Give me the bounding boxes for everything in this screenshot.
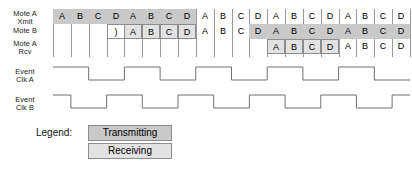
signal-cell: C	[374, 24, 392, 39]
signal-cell: B	[285, 24, 303, 39]
signal-cell: C	[89, 9, 107, 24]
signal-cell: A	[53, 9, 71, 24]
signal-cell: C	[303, 9, 321, 24]
row-label-line2: Clk A	[0, 76, 50, 84]
signal-cell: C	[160, 9, 178, 24]
signal-cell: A	[339, 24, 357, 39]
signal-cell: B	[356, 9, 374, 24]
waveform-trace	[53, 67, 410, 80]
signal-cell: B	[356, 39, 374, 54]
row-label-event-clk-a: Event Clk A	[0, 68, 50, 85]
signal-cell: A	[267, 39, 285, 54]
timing-diagram-root: Mote A Xmit Mote B Mote A Rcv Event Clk …	[0, 0, 412, 173]
signal-cell: D	[392, 24, 410, 39]
signal-cell: B	[214, 9, 232, 24]
row-label-event-clk-b: Event Clk B	[0, 96, 50, 113]
signal-cell: D	[321, 24, 339, 39]
signal-cell: C	[374, 9, 392, 24]
signal-lane-mote-b: )ABCDABCDABCDABCD	[53, 24, 410, 39]
signal-cell: C	[232, 9, 250, 24]
signal-cell: D	[249, 9, 267, 24]
signal-cell: A	[196, 9, 214, 24]
signal-cell: B	[142, 9, 160, 24]
signal-cell: C	[374, 39, 392, 54]
signal-cell: D	[321, 39, 339, 54]
signal-cell: B	[71, 9, 89, 24]
signal-cell: A	[339, 39, 357, 54]
row-label-line2: Clk B	[0, 104, 50, 112]
signal-cell: B	[285, 9, 303, 24]
legend-swatch-transmitting: Transmitting	[88, 125, 172, 141]
row-label-mote-a-xmit: Mote A Xmit	[0, 10, 50, 27]
signal-cell: A	[267, 9, 285, 24]
row-label-line1: Mote B	[13, 26, 37, 35]
signal-cell: D	[107, 9, 125, 24]
row-label-mote-b: Mote B	[0, 27, 50, 35]
waveform-event-clk-b	[53, 92, 410, 112]
signal-cell: C	[160, 24, 178, 39]
signal-cell: D	[178, 9, 196, 24]
row-label-mote-a-rcv: Mote A Rcv	[0, 40, 50, 57]
signal-cell: B	[142, 24, 160, 39]
signal-cell: D	[392, 39, 410, 54]
signal-cell: B	[356, 24, 374, 39]
grid-tick	[410, 9, 411, 57]
legend-swatch-receiving: Receiving	[88, 143, 172, 159]
signal-cell: C	[303, 39, 321, 54]
signal-cell: A	[124, 24, 142, 39]
row-label-line2: Rcv	[0, 48, 50, 56]
signal-cell: A	[339, 9, 357, 24]
signal-cell: D	[249, 24, 267, 39]
signal-cell: B	[285, 39, 303, 54]
signal-lane-mote-a-rcv: ABCDABCD	[53, 39, 410, 54]
signal-cell: D	[392, 9, 410, 24]
signal-grid: ABCDABCDABCDABCDABCD )ABCDABCDABCDABCD A…	[53, 9, 410, 57]
signal-cell: D	[321, 9, 339, 24]
signal-cell: A	[124, 9, 142, 24]
waveform-event-clk-a	[53, 64, 410, 84]
signal-cell: C	[303, 24, 321, 39]
signal-cell: )	[107, 24, 125, 39]
signal-cell: D	[178, 24, 196, 39]
signal-lane-mote-a-xmit: ABCDABCDABCDABCDABCD	[53, 9, 410, 24]
legend-title: Legend:	[36, 127, 72, 138]
signal-cell: A	[196, 24, 214, 39]
signal-cell: C	[232, 24, 250, 39]
signal-cell: B	[214, 24, 232, 39]
signal-cell: A	[267, 24, 285, 39]
waveform-trace	[53, 95, 410, 108]
